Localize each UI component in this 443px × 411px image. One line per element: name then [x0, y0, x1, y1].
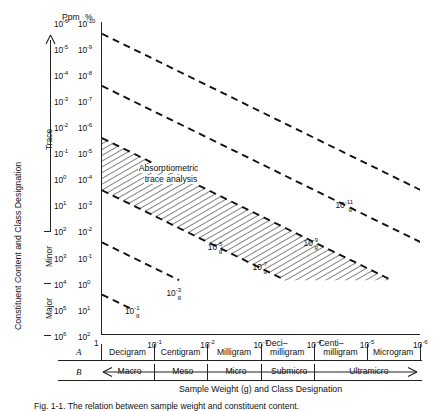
- iso-line-4: [102, 242, 179, 280]
- iso-line-label-3: 10-5g: [208, 241, 223, 251]
- y-tick-percent-7: 10-3: [78, 200, 92, 210]
- y-tick-percent-2: 10-8: [78, 70, 92, 80]
- iso-line-label-4: 10-3g: [166, 287, 181, 297]
- y-tick-percent-8: 10-2: [78, 226, 92, 236]
- y-tick-ppm-9: 103: [54, 253, 66, 263]
- y-tick-percent-1: 10-9: [78, 44, 92, 54]
- x-row-a-cell-3-prefix: Deci–: [266, 339, 288, 348]
- y-tick-percent-4: 10-6: [78, 122, 92, 132]
- x-row-b-arrows: [95, 358, 425, 380]
- y-tick-ppm-6: 100: [54, 174, 66, 184]
- x-row-a-cell-1: Centigram: [161, 348, 201, 357]
- y-category-minor: Minor: [45, 246, 53, 267]
- y-tick-ppm-7: 101: [54, 200, 66, 210]
- bracket-foot-trace: [44, 231, 51, 232]
- x-axis-title: Sample Weight (g) and Class Designation: [179, 385, 342, 394]
- shaded-region-label-line2: trace analysis: [144, 175, 199, 184]
- iso-line-label-0: 10-11g: [335, 199, 353, 209]
- y-tick-percent-12: 102: [78, 331, 90, 341]
- bracket-spine-trace: [50, 40, 51, 231]
- y-tick-percent-3: 10-7: [78, 96, 92, 106]
- shaded-region-label-line1: Absorptiometric: [138, 164, 200, 173]
- y-tick-percent-6: 10-4: [78, 174, 92, 184]
- iso-line-label-1: 10-9g: [304, 237, 319, 247]
- x-row-a-id: A: [76, 348, 82, 357]
- x-row-b-id: B: [76, 368, 82, 377]
- y-tick-percent-11: 101: [78, 305, 90, 315]
- y-tick-percent-0: 10-10: [78, 18, 95, 28]
- x-row-a-cell-5: Microgram: [373, 348, 414, 357]
- y-tick-ppm-10: 104: [54, 279, 66, 289]
- y-tick-ppm-0: 10-6: [54, 18, 68, 28]
- y-tick-ppm-12: 106: [54, 331, 66, 341]
- x-tick-0: 1: [94, 339, 99, 347]
- bracket-foot-major: [44, 335, 51, 336]
- y-tick-percent-10: 100: [78, 279, 90, 289]
- x-row-a-cell-0: Decigram: [109, 348, 146, 357]
- y-category-major: Major: [45, 298, 53, 319]
- y-tick-ppm-4: 10-2: [54, 122, 68, 132]
- bracket-foot-minor: [44, 283, 51, 284]
- y-tick-percent-5: 10-5: [78, 148, 92, 158]
- x-row-a-cell-2: Milligram: [217, 348, 251, 357]
- x-row-a-cell-4-prefix: Centi–: [319, 339, 344, 348]
- y-tick-percent-9: 10-1: [78, 253, 92, 263]
- x-row-a-cell-4: milligram: [323, 348, 357, 357]
- y-axis-title: Constituent Content and Class Designatio…: [14, 162, 23, 330]
- x-row-a-cell-3: milligram: [270, 348, 304, 357]
- y-tick-ppm-5: 10-1: [54, 148, 68, 158]
- iso-line-label-2: 10-7g: [253, 261, 268, 271]
- y-tick-ppm-3: 10-3: [54, 96, 68, 106]
- iso-line-label-5: 10-1g: [125, 305, 140, 315]
- figure-caption: Fig. 1-1. The relation between sample we…: [34, 402, 299, 411]
- y-tick-ppm-2: 10-4: [54, 70, 68, 80]
- y-tick-ppm-1: 10-5: [54, 44, 68, 54]
- y-tick-ppm-8: 102: [54, 226, 66, 236]
- y-tick-ppm-11: 105: [54, 305, 66, 315]
